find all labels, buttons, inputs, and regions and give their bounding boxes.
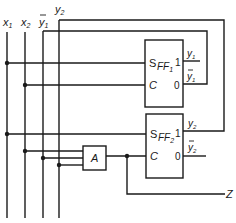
ff2-output-y2-bar: y2 bbox=[187, 142, 197, 154]
junction-dot bbox=[5, 132, 9, 136]
flipflop-ff1-box bbox=[145, 40, 183, 107]
ff1-pin-q: 1 bbox=[175, 57, 181, 68]
junction-dot bbox=[23, 83, 27, 87]
ff1-output-y1: y1 bbox=[186, 48, 195, 60]
ff1-output-y1-bar: y1 bbox=[186, 71, 195, 83]
junction-dot bbox=[23, 149, 27, 153]
output-z-label: Z bbox=[225, 188, 234, 200]
label-x1: x1 bbox=[2, 16, 13, 29]
ff2-pin-q: 1 bbox=[175, 128, 181, 139]
circuit-diagram: x1 x2 y1 y2 S FF1 1 C 0 y1 y1 S FF2 1 C … bbox=[0, 0, 236, 223]
ff1-pin-s: S bbox=[149, 57, 156, 69]
flipflop-ff2-box bbox=[146, 114, 183, 178]
ff2-pin-s: S bbox=[150, 128, 157, 140]
junction-dot bbox=[41, 156, 45, 160]
junction-dot bbox=[57, 163, 61, 167]
ff1-pin-c: C bbox=[149, 79, 157, 91]
ff2-pin-qbar: 0 bbox=[175, 151, 181, 162]
junction-dot bbox=[125, 154, 129, 158]
label-y2: y2 bbox=[54, 3, 65, 16]
ff2-output-y2: y2 bbox=[187, 118, 197, 130]
ff1-pin-qbar: 0 bbox=[174, 80, 180, 91]
label-y1-bar: y1 bbox=[38, 16, 49, 29]
ff2-pin-c: C bbox=[150, 150, 158, 162]
feedback-y2 bbox=[59, 20, 224, 131]
label-x2: x2 bbox=[20, 16, 31, 29]
and-gate-label: A bbox=[90, 152, 98, 164]
junction-dot bbox=[5, 61, 9, 65]
ff2-label: FF2 bbox=[158, 132, 174, 144]
ff1-label: FF1 bbox=[157, 61, 173, 73]
